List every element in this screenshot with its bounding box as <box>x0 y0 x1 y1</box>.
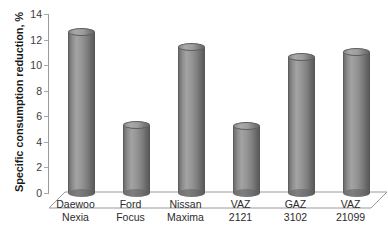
bar <box>343 48 370 193</box>
x-tick-label-line: VAZ <box>317 198 384 211</box>
bar-bottom-ellipse <box>288 189 315 197</box>
bar-series <box>48 14 378 194</box>
y-axis-title: Specific consumption reduction, % <box>13 7 25 197</box>
bar-top-ellipse <box>343 48 370 56</box>
bar-bottom-ellipse <box>343 189 370 197</box>
bar <box>233 122 260 193</box>
y-tick-label: 12 <box>30 34 42 46</box>
bar-body <box>68 32 95 193</box>
bar-body <box>288 57 315 193</box>
x-tick-label-line: 21099 <box>317 211 384 224</box>
y-tick-label: 14 <box>30 8 42 20</box>
bar-top-ellipse <box>288 53 315 61</box>
bar-body <box>178 47 205 193</box>
bar <box>288 53 315 193</box>
y-tick-label: 2 <box>36 161 42 173</box>
y-tick-label: 8 <box>36 85 42 97</box>
bar-bottom-ellipse <box>123 189 150 197</box>
y-tick-label: 10 <box>30 59 42 71</box>
bar-body <box>233 126 260 193</box>
bar-top-ellipse <box>233 122 260 130</box>
x-tick-label: VAZ21099 <box>317 198 384 224</box>
bar <box>123 121 150 193</box>
bar-body <box>123 125 150 193</box>
bar <box>178 43 205 193</box>
bar-bottom-ellipse <box>233 189 260 197</box>
bar-bottom-ellipse <box>178 189 205 197</box>
plot-area: 02468101214 <box>48 14 378 194</box>
y-tick-label: 6 <box>36 110 42 122</box>
bar-body <box>343 52 370 193</box>
bar-bottom-ellipse <box>68 189 95 197</box>
bar <box>68 28 95 193</box>
bar-top-ellipse <box>178 43 205 51</box>
y-tick-label: 4 <box>36 136 42 148</box>
x-axis-categories: DaewooNexiaFordFocusNissanMaximaVAZ2121G… <box>48 198 378 238</box>
bar-top-ellipse <box>123 121 150 129</box>
